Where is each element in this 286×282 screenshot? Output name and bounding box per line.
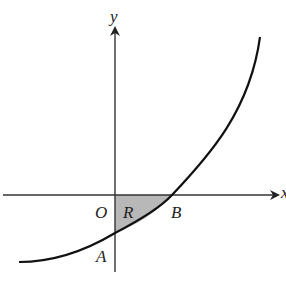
graph-diagram: y x O R B A [0,0,286,282]
curve [19,37,260,262]
y-axis-label: y [110,8,118,25]
region-label: R [123,204,133,221]
graph-svg [0,0,286,282]
origin-label: O [95,204,107,221]
point-b-label: B [171,204,181,221]
point-a-label: A [96,248,106,265]
x-axis-label: x [281,184,286,201]
